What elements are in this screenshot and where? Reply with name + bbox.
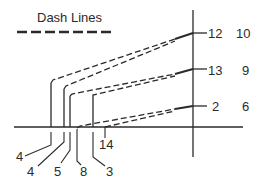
label-8: 8 [80, 164, 87, 179]
route-upper-b [64, 41, 175, 89]
label-6: 6 [242, 99, 249, 114]
label-14: 14 [99, 137, 113, 152]
legend: Dash Lines [17, 10, 111, 32]
legend-label: Dash Lines [37, 10, 103, 25]
right-labels: 12 10 13 9 2 6 [208, 26, 250, 114]
label-12: 12 [208, 26, 222, 41]
axis-stubs [193, 33, 207, 106]
diagram-svg: Dash Lines [0, 0, 261, 189]
label-5: 5 [54, 164, 61, 179]
label-10: 10 [236, 26, 250, 41]
wiring-diagram: Dash Lines [0, 0, 261, 189]
vertical-conductors [51, 83, 93, 128]
label-9: 9 [242, 63, 249, 78]
route-lower-a [77, 109, 175, 128]
label-4a: 4 [16, 149, 23, 164]
label-4b: 4 [27, 164, 34, 179]
leader-lines [25, 127, 105, 166]
label-2: 2 [212, 99, 219, 114]
route-upper-a [51, 39, 175, 83]
label-13: 13 [208, 63, 222, 78]
route-middle-a [70, 74, 175, 96]
solid-segments [175, 33, 193, 109]
route-middle-b [93, 76, 175, 97]
label-3: 3 [106, 164, 113, 179]
